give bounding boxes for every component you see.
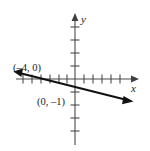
coordinate-plane-figure: (–4, 0) (0, –1) y x — [0, 0, 150, 151]
x-axis-label: x — [130, 82, 136, 94]
y-axis-label: y — [80, 13, 86, 25]
y-intercept-point-label: (0, –1) — [37, 96, 65, 108]
x-intercept-point-label: (–4, 0) — [13, 62, 41, 74]
